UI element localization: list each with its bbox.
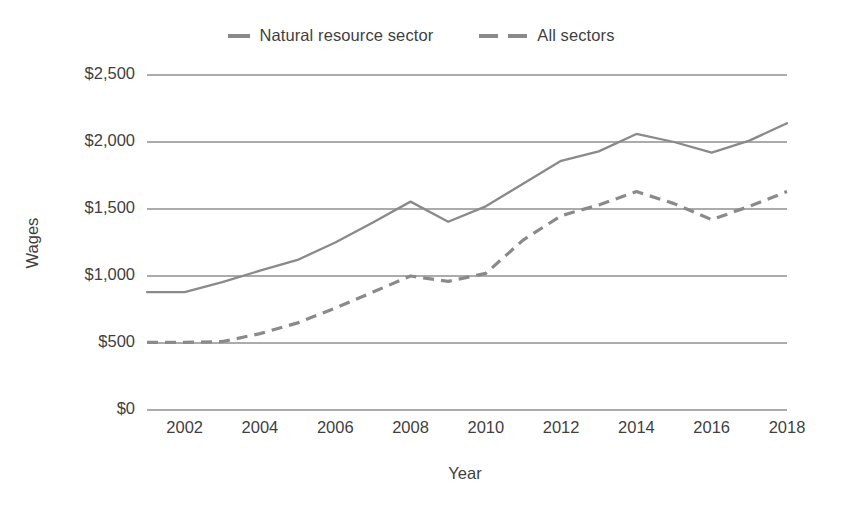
x-axis-tick-label: 2014 (618, 418, 655, 436)
y-axis-tick-label: $500 (98, 332, 135, 350)
x-axis-tick-label: 2010 (467, 418, 504, 436)
x-axis-tick-label: 2006 (317, 418, 354, 436)
y-axis-tick-label: $2,500 (85, 64, 135, 82)
x-axis-tick-label: 2002 (166, 418, 203, 436)
x-axis-tick-label: 2012 (543, 418, 580, 436)
y-axis-tick-label: $1,000 (85, 265, 135, 283)
x-axis-title: Year (448, 464, 482, 482)
series-line-natural-resource-sector (147, 123, 787, 292)
gridlines (147, 75, 787, 410)
wages-line-chart: Natural resource sector All sectors $0$5… (0, 0, 842, 512)
x-axis-tick-label: 2016 (693, 418, 730, 436)
data-series (147, 123, 787, 342)
y-axis-tick-label: $0 (117, 399, 135, 417)
y-axis-tick-label: $2,000 (85, 131, 135, 149)
y-axis-tick-labels: $0$500$1,000$1,500$2,000$2,500 (85, 64, 135, 417)
y-axis-title: Wages (23, 218, 41, 269)
x-axis-tick-label: 2008 (392, 418, 429, 436)
x-axis-tick-label: 2018 (769, 418, 806, 436)
x-axis-tick-labels: 200220042006200820102012201420162018 (166, 418, 805, 436)
x-axis-tick-label: 2004 (242, 418, 279, 436)
plot-area: $0$500$1,000$1,500$2,000$2,500 200220042… (0, 0, 842, 512)
y-axis-tick-label: $1,500 (85, 198, 135, 216)
